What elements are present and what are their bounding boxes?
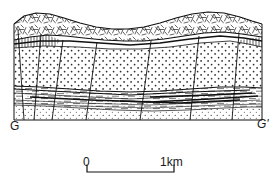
scale-bar-right-label: 1km (160, 155, 183, 169)
geologic-cross-section-figure: G G' 0 1km (0, 0, 280, 189)
scale-bar-left-label: 0 (83, 155, 90, 169)
section-label-left: G (10, 119, 19, 133)
cross-section-drawing (0, 0, 280, 189)
section-label-right: G' (257, 117, 269, 131)
